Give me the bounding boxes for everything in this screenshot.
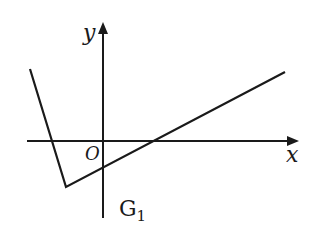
graph-label-main: G	[119, 196, 137, 221]
origin-label: O	[85, 143, 100, 164]
y-axis-label: y	[82, 20, 96, 45]
graph-label-subscript: 1	[137, 207, 147, 225]
x-axis-label: x	[286, 142, 299, 167]
graph-label: G1	[119, 196, 146, 225]
y-axis-arrow-icon	[98, 22, 108, 34]
graph-g1-polyline	[30, 69, 285, 187]
coordinate-diagram: y O x G1	[0, 0, 325, 245]
